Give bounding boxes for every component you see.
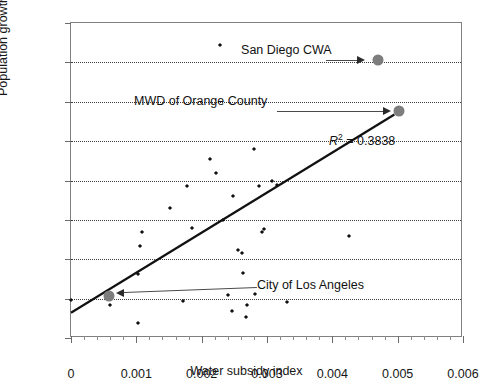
plot-area: 00.0010.0020.0030.0040.0050.006 00.020.0…: [70, 22, 462, 337]
data-point: [269, 178, 273, 182]
highlighted-data-point: [373, 55, 384, 66]
y-axis-title: Population growth rate: [0, 0, 10, 96]
x-tick-label: 0.004: [297, 367, 367, 381]
x-tick: [463, 336, 464, 343]
x-tick-label: 0.006: [428, 367, 493, 381]
x-tick-label: 0.003: [232, 367, 302, 381]
annotation-mwd-orange-county: MWD of Orange County: [134, 94, 267, 108]
x-tick-label: 0.005: [363, 367, 433, 381]
annotation-san-diego-cwa: San Diego CWA: [241, 43, 332, 57]
annotation-city-of-los-angeles: City of Los Angeles: [257, 278, 364, 292]
x-tick-label: 0: [36, 367, 106, 381]
leader-line-mwd-orange-county: [277, 111, 385, 112]
x-tick-label: 0.002: [167, 367, 237, 381]
scatter-chart: Population growth rate Water subsidy ind…: [0, 0, 493, 389]
arrow-icon-mwd-orange-county: [383, 107, 391, 115]
highlighted-data-point: [103, 290, 114, 301]
x-tick-label: 0.001: [101, 367, 171, 381]
leader-line-san-diego-cwa: [326, 60, 358, 61]
arrow-icon-city-of-los-angeles: [116, 289, 124, 297]
r-squared-label: R2 = 0.3838: [329, 132, 395, 148]
arrow-icon-san-diego-cwa: [357, 56, 365, 64]
highlighted-data-point: [393, 106, 404, 117]
y-tick: [65, 338, 71, 339]
